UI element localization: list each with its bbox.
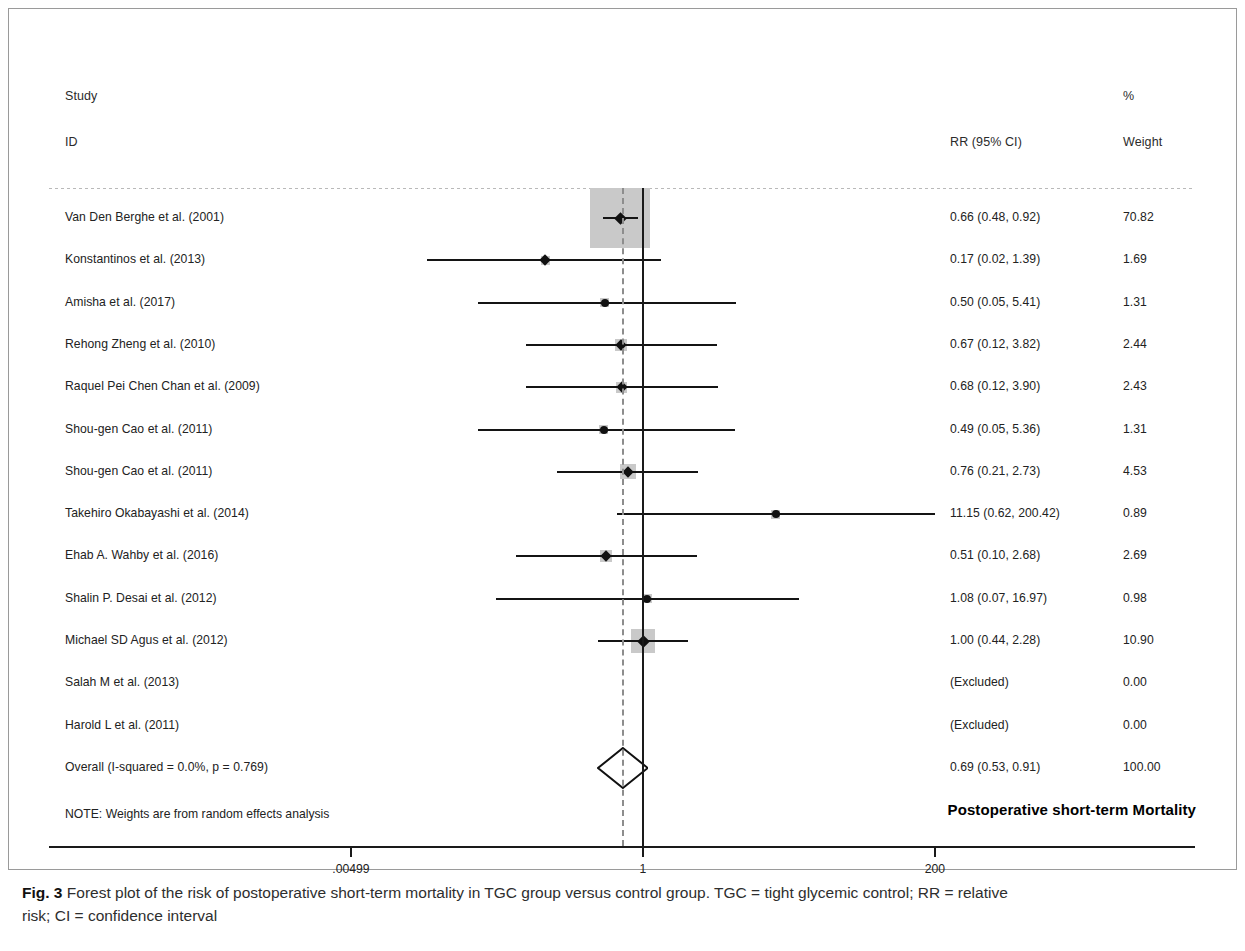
weight-value: 2.69 [1123, 548, 1185, 562]
weight-value: 1.31 [1123, 295, 1185, 309]
study-label: Rehong Zheng et al. (2010) [65, 337, 215, 351]
effect-estimate: 0.50 (0.05, 5.41) [950, 295, 1040, 309]
effect-estimate: (Excluded) [950, 718, 1009, 732]
header-percent: % [1123, 89, 1134, 103]
point-estimate-marker [772, 510, 780, 518]
caption-text: Forest plot of the risk of postoperative… [62, 884, 1007, 901]
weights-note: NOTE: Weights are from random effects an… [65, 807, 329, 821]
axis-tick [934, 848, 936, 857]
header-study: Study [65, 89, 97, 103]
overall-label: Overall (I-squared = 0.0%, p = 0.769) [65, 760, 268, 774]
point-estimate-marker [643, 595, 651, 603]
weight-value: 4.53 [1123, 464, 1185, 478]
figure-caption: Fig. 3 Forest plot of the risk of postop… [22, 882, 1222, 928]
study-label: Shou-gen Cao et al. (2011) [65, 464, 212, 478]
caption-text-line2: risk; CI = confidence interval [22, 905, 1222, 928]
effect-estimate: 1.08 (0.07, 16.97) [950, 591, 1047, 605]
effect-estimate: 11.15 (0.62, 200.42) [950, 506, 1060, 520]
axis-tick [642, 848, 644, 857]
study-label: Salah M et al. (2013) [65, 675, 179, 689]
study-label: Takehiro Okabayashi et al. (2014) [65, 506, 249, 520]
header-effect: RR (95% CI) [950, 135, 1022, 149]
weight-value: 70.82 [1123, 210, 1185, 224]
study-label: Harold L et al. (2011) [65, 718, 179, 732]
weight-value: 0.00 [1123, 675, 1185, 689]
pooled-effect-line [622, 188, 624, 846]
weight-value: 100.00 [1123, 760, 1185, 774]
effect-estimate: (Excluded) [950, 675, 1009, 689]
weight-value: 1.69 [1123, 252, 1185, 266]
study-label: Michael SD Agus et al. (2012) [65, 633, 228, 647]
weight-value: 2.44 [1123, 337, 1185, 351]
study-label: Amisha et al. (2017) [65, 295, 175, 309]
weight-value: 0.98 [1123, 591, 1185, 605]
axis-line [49, 846, 1195, 848]
study-label: Van Den Berghe et al. (2001) [65, 210, 224, 224]
study-label: Raquel Pei Chen Chan et al. (2009) [65, 379, 260, 393]
weight-value: 10.90 [1123, 633, 1185, 647]
header-weight: Weight [1123, 135, 1162, 149]
plot-title: Postoperative short-term Mortality [948, 801, 1196, 818]
effect-estimate: 0.69 (0.53, 0.91) [950, 760, 1040, 774]
effect-estimate: 0.68 (0.12, 3.90) [950, 379, 1040, 393]
caption-label: Fig. 3 [22, 884, 62, 901]
weight-value: 1.31 [1123, 422, 1185, 436]
axis-tick [350, 848, 352, 857]
effect-estimate: 0.66 (0.48, 0.92) [950, 210, 1040, 224]
axis-tick-label: .00499 [332, 862, 369, 876]
effect-estimate: 0.51 (0.10, 2.68) [950, 548, 1040, 562]
effect-estimate: 0.67 (0.12, 3.82) [950, 337, 1040, 351]
point-estimate-marker [601, 299, 609, 307]
effect-estimate: 0.17 (0.02, 1.39) [950, 252, 1040, 266]
study-label: Shou-gen Cao et al. (2011) [65, 422, 212, 436]
study-label: Shalin P. Desai et al. (2012) [65, 591, 217, 605]
weight-value: 0.89 [1123, 506, 1185, 520]
effect-estimate: 0.49 (0.05, 5.36) [950, 422, 1040, 436]
null-effect-line [642, 188, 644, 846]
weight-value: 0.00 [1123, 718, 1185, 732]
study-label: Konstantinos et al. (2013) [65, 252, 205, 266]
study-label: Ehab A. Wahby et al. (2016) [65, 548, 218, 562]
effect-estimate: 0.76 (0.21, 2.73) [950, 464, 1040, 478]
axis-tick-label: 1 [640, 862, 647, 876]
weight-value: 2.43 [1123, 379, 1185, 393]
header-id: ID [65, 135, 78, 149]
forest-plot-figure: Study ID RR (95% CI) % Weight Van Den Be… [8, 8, 1237, 870]
figure-page: Study ID RR (95% CI) % Weight Van Den Be… [0, 0, 1245, 951]
forest-plot-canvas: Study ID RR (95% CI) % Weight Van Den Be… [9, 9, 1238, 871]
point-estimate-marker [600, 426, 608, 434]
axis-tick-label: 200 [925, 862, 945, 876]
effect-estimate: 1.00 (0.44, 2.28) [950, 633, 1040, 647]
